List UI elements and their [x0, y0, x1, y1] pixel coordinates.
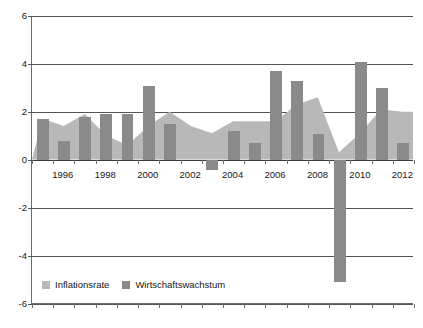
x-tick-mark	[414, 304, 415, 308]
x-tick-mark-zero-axis	[244, 160, 245, 164]
x-axis-tick-label: 2010	[349, 169, 370, 180]
x-tick-mark	[329, 304, 330, 308]
x-tick-mark-zero-axis	[372, 160, 373, 164]
x-tick-mark-zero-axis	[181, 160, 182, 164]
x-tick-mark-zero-axis	[265, 160, 266, 164]
chart-legend: InflationsrateWirtschaftswachstum	[42, 279, 225, 290]
x-tick-mark-zero-axis	[223, 160, 224, 164]
bar	[164, 124, 176, 160]
x-tick-mark	[350, 304, 351, 308]
x-tick-mark	[74, 304, 75, 308]
x-axis-tick-label: 2004	[222, 169, 243, 180]
bar	[376, 88, 388, 160]
bar	[143, 86, 155, 160]
y-axis-tick-label: -4	[0, 251, 27, 261]
x-tick-mark-zero-axis	[96, 160, 97, 164]
bar	[122, 114, 134, 160]
x-tick-mark	[393, 304, 394, 308]
x-tick-mark	[223, 304, 224, 308]
x-tick-mark	[202, 304, 203, 308]
plot-area	[31, 16, 413, 304]
y-axis-tick-label: 0	[0, 155, 27, 165]
x-tick-mark-zero-axis	[32, 160, 33, 164]
x-tick-mark-zero-axis	[350, 160, 351, 164]
x-tick-mark	[181, 304, 182, 308]
x-tick-mark	[96, 304, 97, 308]
legend-swatch-icon	[42, 281, 50, 289]
x-axis-tick-label: 2012	[392, 169, 413, 180]
x-tick-mark-zero-axis	[202, 160, 203, 164]
x-tick-mark	[32, 304, 33, 308]
x-tick-mark-zero-axis	[138, 160, 139, 164]
x-tick-mark-zero-axis	[53, 160, 54, 164]
y-axis-tick-label: 6	[0, 11, 27, 21]
x-tick-mark	[244, 304, 245, 308]
bar	[397, 143, 409, 160]
bar	[58, 141, 70, 160]
x-tick-mark-zero-axis	[159, 160, 160, 164]
bar	[291, 81, 303, 160]
economic-indicators-chart: 6420-2-4-6 19961998200020022004200620082…	[0, 0, 423, 328]
legend-item[interactable]: Inflationsrate	[42, 279, 109, 290]
x-axis-tick-label: 2002	[180, 169, 201, 180]
bar	[355, 62, 367, 160]
legend-label: Wirtschaftswachstum	[135, 279, 225, 290]
y-axis-tick-label: 2	[0, 107, 27, 117]
x-tick-mark	[53, 304, 54, 308]
x-tick-mark	[372, 304, 373, 308]
x-tick-mark	[117, 304, 118, 308]
x-tick-mark-zero-axis	[414, 160, 415, 164]
legend-label: Inflationsrate	[55, 279, 109, 290]
bar	[334, 160, 346, 282]
y-axis-tick-label: -6	[0, 299, 27, 309]
x-tick-mark	[287, 304, 288, 308]
x-tick-mark	[159, 304, 160, 308]
bar	[79, 117, 91, 160]
x-axis-tick-label: 1998	[95, 169, 116, 180]
legend-swatch-icon	[122, 281, 130, 289]
y-axis-tick-label: 4	[0, 59, 27, 69]
bar	[249, 143, 261, 160]
bar	[100, 114, 112, 160]
x-tick-mark	[308, 304, 309, 308]
bar	[228, 131, 240, 160]
x-tick-mark-zero-axis	[329, 160, 330, 164]
x-tick-mark-zero-axis	[287, 160, 288, 164]
bar	[270, 71, 282, 160]
x-axis-tick-label: 2000	[137, 169, 158, 180]
bar	[313, 134, 325, 160]
bar	[206, 160, 218, 170]
x-tick-mark-zero-axis	[308, 160, 309, 164]
legend-item[interactable]: Wirtschaftswachstum	[122, 279, 225, 290]
x-tick-mark-zero-axis	[393, 160, 394, 164]
x-axis-tick-label: 2006	[264, 169, 285, 180]
x-tick-mark-zero-axis	[74, 160, 75, 164]
x-tick-mark-zero-axis	[117, 160, 118, 164]
x-tick-mark	[265, 304, 266, 308]
y-axis-tick-label: -2	[0, 203, 27, 213]
bar	[37, 119, 49, 160]
x-axis-tick-label: 1996	[52, 169, 73, 180]
x-tick-mark	[138, 304, 139, 308]
x-axis-tick-label: 2008	[307, 169, 328, 180]
